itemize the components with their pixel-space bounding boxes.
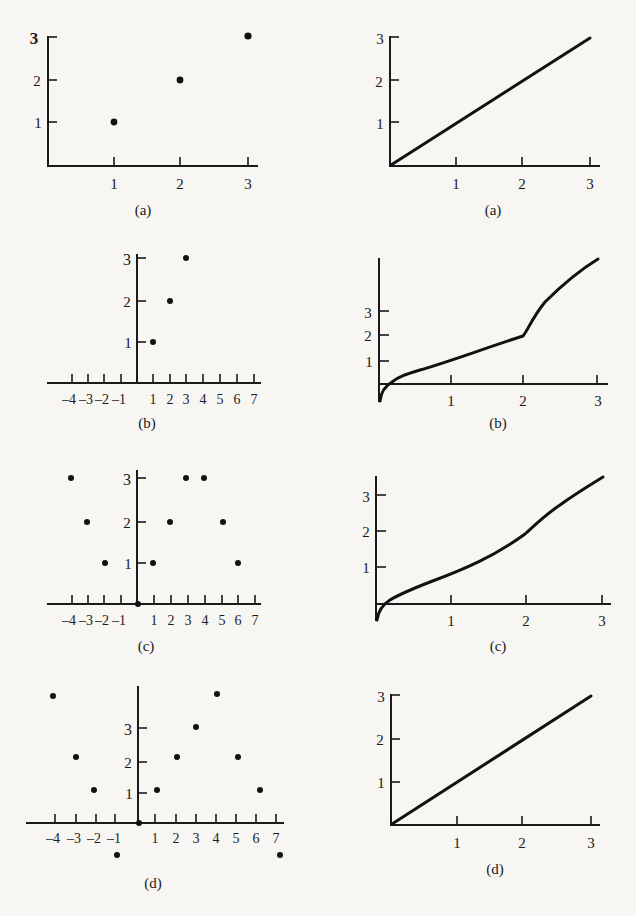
svg-text:3: 3 — [362, 489, 370, 505]
caption-left-d: (d) — [144, 875, 162, 892]
svg-text:–3: –3 — [78, 613, 93, 628]
svg-text:2: 2 — [376, 732, 384, 748]
panel-right-c: 3 2 1 1 2 3 (c) — [362, 476, 611, 655]
caption-right-d: (d) — [486, 861, 504, 878]
data-point — [154, 787, 160, 793]
curve — [377, 477, 603, 620]
data-point — [102, 560, 108, 566]
svg-text:2: 2 — [518, 835, 526, 851]
caption-left-b: (b) — [138, 415, 156, 432]
svg-text:3: 3 — [193, 831, 200, 846]
data-point — [150, 339, 156, 345]
svg-text:6: 6 — [234, 392, 241, 407]
svg-text:1: 1 — [125, 786, 133, 802]
svg-text:3: 3 — [376, 31, 384, 47]
data-point — [177, 77, 184, 84]
svg-text:3: 3 — [377, 689, 385, 705]
data-point — [73, 754, 79, 760]
svg-text:1: 1 — [150, 392, 157, 407]
svg-text:1: 1 — [447, 613, 455, 629]
svg-text:3: 3 — [123, 251, 131, 268]
data-point — [235, 560, 241, 566]
panel-left-a: 3 2 1 1 2 3 (a) — [30, 29, 258, 219]
panel-right-a: 3 2 1 1 2 3 (a) — [375, 31, 600, 219]
svg-text:6: 6 — [235, 613, 242, 628]
data-point — [150, 560, 156, 566]
svg-text:2: 2 — [168, 613, 175, 628]
svg-text:2: 2 — [33, 73, 41, 89]
svg-text:–1: –1 — [111, 392, 126, 407]
curve — [391, 38, 590, 165]
figure: 3 2 1 1 2 3 (a) 3 2 1 1 2 3 (a) — [0, 0, 636, 916]
svg-text:1: 1 — [152, 831, 159, 846]
svg-text:2: 2 — [375, 74, 383, 90]
svg-text:1: 1 — [376, 116, 384, 132]
svg-text:2: 2 — [124, 755, 132, 771]
svg-text:1: 1 — [151, 613, 158, 628]
data-point — [135, 601, 141, 607]
panel-left-b: 3 2 1 –4 –3 –2 –1 1 2 3 4 5 6 7 (b) — [47, 251, 261, 432]
caption-right-a: (a) — [485, 202, 502, 219]
data-point — [235, 754, 241, 760]
panel-left-d: 3 2 1 –4 –3 –2 –1 1 2 3 4 5 6 7 (d) — [26, 686, 284, 892]
data-point — [167, 298, 173, 304]
svg-text:2: 2 — [173, 831, 180, 846]
curve — [392, 696, 591, 824]
data-point — [111, 119, 118, 126]
svg-text:1: 1 — [124, 556, 132, 572]
data-point — [214, 691, 220, 697]
data-point — [50, 693, 56, 699]
svg-text:2: 2 — [123, 294, 131, 310]
svg-text:–4: –4 — [61, 392, 76, 407]
data-point — [220, 519, 226, 525]
panel-left-c: 3 2 1 –4 –3 –2 –1 1 2 3 4 5 6 7 (c) — [47, 470, 261, 655]
svg-text:1: 1 — [452, 176, 460, 192]
svg-text:5: 5 — [233, 831, 240, 846]
data-point — [114, 852, 120, 858]
svg-text:–1: –1 — [111, 613, 126, 628]
svg-text:3: 3 — [587, 835, 595, 851]
svg-text:4: 4 — [200, 392, 207, 407]
panel-right-b: 3 2 1 1 2 3 (b) — [364, 258, 608, 432]
data-point — [136, 820, 142, 826]
svg-text:3: 3 — [364, 305, 372, 321]
svg-text:–4: –4 — [61, 613, 76, 628]
svg-text:1: 1 — [110, 176, 118, 192]
data-point — [183, 255, 189, 261]
svg-text:7: 7 — [252, 613, 259, 628]
svg-text:3: 3 — [598, 613, 606, 629]
data-point — [244, 32, 251, 39]
svg-text:2: 2 — [167, 392, 174, 407]
svg-text:3: 3 — [244, 176, 252, 192]
svg-text:4: 4 — [213, 831, 220, 846]
svg-text:1: 1 — [365, 354, 373, 370]
data-point — [201, 475, 207, 481]
svg-text:6: 6 — [253, 831, 260, 846]
svg-text:1: 1 — [124, 335, 132, 351]
svg-text:7: 7 — [273, 831, 280, 846]
svg-text:–2: –2 — [86, 831, 101, 846]
svg-text:3: 3 — [123, 471, 131, 488]
svg-text:1: 1 — [34, 115, 42, 131]
svg-text:–2: –2 — [94, 392, 109, 407]
svg-text:1: 1 — [377, 775, 385, 791]
svg-text:2: 2 — [522, 613, 530, 629]
caption-left-c: (c) — [138, 638, 155, 655]
svg-text:2: 2 — [518, 176, 526, 192]
data-point — [277, 852, 283, 858]
caption-right-b: (b) — [489, 415, 507, 432]
svg-text:5: 5 — [217, 392, 224, 407]
svg-text:–3: –3 — [78, 392, 93, 407]
svg-text:2: 2 — [362, 524, 370, 540]
svg-text:3: 3 — [183, 392, 190, 407]
data-point — [84, 519, 90, 525]
svg-text:2: 2 — [123, 515, 131, 531]
svg-text:3: 3 — [30, 29, 39, 48]
svg-text:3: 3 — [586, 176, 594, 192]
svg-text:–1: –1 — [106, 831, 121, 846]
data-point — [91, 787, 97, 793]
caption-right-c: (c) — [490, 638, 507, 655]
svg-text:2: 2 — [364, 328, 372, 344]
svg-text:3: 3 — [185, 613, 192, 628]
svg-text:3: 3 — [124, 721, 132, 738]
